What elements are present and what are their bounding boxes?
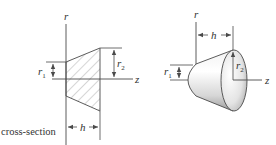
h-dimension: h — [68, 111, 100, 140]
frustum-solid-diagram: r h r1 r2 z — [164, 8, 270, 111]
r2-label: r2 — [117, 57, 125, 72]
r1-dimension: r1 — [38, 62, 66, 80]
h-label: h — [80, 121, 86, 133]
z-axis-label: z — [134, 73, 140, 85]
frustum-diagram: r z r1 r2 h cross-section — [0, 0, 276, 145]
cross-section-caption: cross-section — [1, 126, 57, 137]
h-dimension-solid: h — [198, 26, 233, 50]
r2-dimension: r2 — [100, 48, 125, 77]
frustum-large-end — [221, 50, 247, 111]
z-axis-label-solid: z — [264, 74, 270, 86]
cross-section-diagram: r z r1 r2 h cross-section — [1, 10, 140, 145]
r1-label: r1 — [38, 65, 46, 80]
h-label-solid: h — [211, 29, 217, 41]
cross-section-trapezoid — [66, 48, 100, 111]
r-axis-label: r — [64, 10, 69, 22]
r-axis-label-solid: r — [194, 8, 199, 20]
r1-label-solid: r1 — [164, 65, 172, 80]
